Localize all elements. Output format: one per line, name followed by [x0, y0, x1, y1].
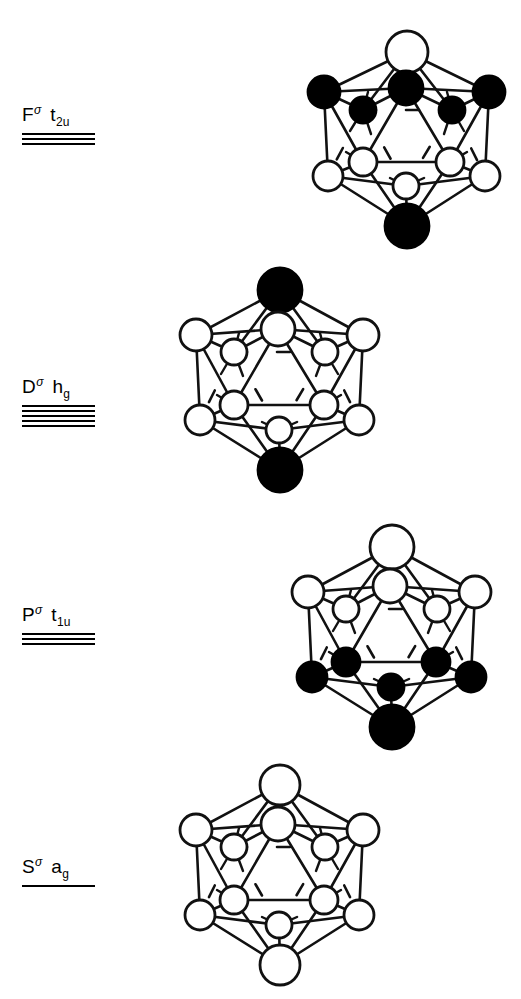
level-superscript-s: σ [35, 855, 42, 869]
vertex-upper-ring [424, 596, 450, 622]
vertex-upper-ring [292, 576, 324, 608]
vertex-lower-ring [344, 900, 374, 930]
vertex-lower-ring [378, 674, 404, 700]
cluster-f [306, 26, 506, 256]
level-term-sub-f: 2u [56, 115, 69, 129]
energy-level-line [22, 425, 95, 427]
vertex-upper-ring [473, 76, 505, 108]
level-lines-d [0, 405, 150, 427]
vertex-lower-ring [310, 391, 338, 419]
level-label-p: Pσt1u [0, 604, 150, 628]
vertex-lower-ring [310, 886, 338, 914]
cluster-s-nodes [180, 765, 379, 985]
vertex-bottom-apex [385, 204, 429, 248]
vertex-lower-ring [185, 900, 215, 930]
vertex-lower-ring [436, 148, 464, 176]
vertex-upper-ring [347, 319, 379, 351]
level-superscript-d: σ [36, 375, 43, 389]
vertex-upper-ring [333, 596, 359, 622]
level-shell-f: F [22, 104, 34, 125]
vertex-upper-ring [261, 807, 295, 841]
energy-level-line [22, 133, 95, 135]
vertex-upper-ring [308, 76, 340, 108]
vertex-lower-ring [220, 886, 248, 914]
vertex-lower-ring [393, 173, 419, 199]
level-group-f: Fσt2u [0, 104, 150, 145]
vertex-lower-ring [313, 161, 343, 191]
cluster-p-nodes [292, 525, 491, 749]
vertex-upper-ring [221, 834, 247, 860]
cluster-d [176, 262, 381, 497]
level-group-s: Sσag [0, 856, 150, 887]
level-superscript-f: σ [34, 103, 41, 117]
energy-level-line [22, 885, 95, 887]
vertex-upper-ring [312, 339, 338, 365]
vertex-lower-ring [349, 148, 377, 176]
level-shell-s: S [22, 856, 35, 877]
vertex-top-apex [258, 268, 302, 312]
vertex-lower-ring [332, 648, 360, 676]
vertex-lower-ring [456, 662, 486, 692]
level-term-sub-p: 1u [57, 615, 70, 629]
energy-level-line [22, 415, 95, 417]
level-lines-f [0, 133, 150, 145]
vertex-top-apex [386, 31, 428, 73]
energy-level-line [22, 633, 95, 635]
vertex-lower-ring [185, 405, 215, 435]
level-lines-p [0, 633, 150, 645]
vertex-upper-ring [261, 312, 295, 346]
vertex-upper-ring [373, 569, 407, 603]
vertex-upper-ring [312, 834, 338, 860]
level-shell-p: P [22, 604, 35, 625]
level-term-sub-d: g [63, 387, 70, 401]
level-label-d: Dσhg [0, 376, 150, 400]
vertex-lower-ring [266, 912, 292, 938]
level-term-s: a [51, 856, 62, 877]
vertex-upper-ring [180, 814, 212, 846]
energy-level-line [22, 138, 95, 140]
vertex-upper-ring [221, 339, 247, 365]
mo-diagram-figure: Fσt2u [0, 0, 521, 999]
energy-level-line [22, 643, 95, 645]
level-lines-s [0, 885, 150, 887]
level-term-sub-s: g [62, 867, 69, 881]
level-label-f: Fσt2u [0, 104, 150, 128]
vertex-top-apex [370, 525, 414, 569]
vertex-upper-ring [389, 71, 423, 105]
cluster-p [288, 519, 493, 754]
vertex-upper-ring [439, 97, 465, 123]
level-shell-d: D [22, 376, 36, 397]
energy-level-line [22, 638, 95, 640]
level-group-d: Dσhg [0, 376, 150, 427]
energy-level-line [22, 410, 95, 412]
level-label-s: Sσag [0, 856, 150, 880]
vertex-lower-ring [422, 648, 450, 676]
vertex-lower-ring [344, 405, 374, 435]
vertex-upper-ring [350, 97, 376, 123]
vertex-bottom-apex [370, 705, 414, 749]
level-group-p: Pσt1u [0, 604, 150, 645]
vertex-upper-ring [459, 576, 491, 608]
vertex-lower-ring [266, 417, 292, 443]
vertex-bottom-apex [260, 945, 300, 985]
vertex-lower-ring [470, 161, 500, 191]
energy-level-line [22, 143, 95, 145]
energy-level-line [22, 405, 95, 407]
cluster-f-nodes [308, 31, 505, 248]
vertex-top-apex [260, 765, 300, 805]
vertex-lower-ring [297, 662, 327, 692]
vertex-upper-ring [347, 814, 379, 846]
vertex-bottom-apex [258, 448, 302, 492]
energy-level-line [22, 420, 95, 422]
vertex-upper-ring [180, 319, 212, 351]
cluster-s [176, 757, 381, 992]
level-term-d: h [52, 376, 63, 397]
vertex-lower-ring [220, 391, 248, 419]
level-superscript-p: σ [35, 603, 42, 617]
cluster-d-nodes [180, 268, 379, 492]
